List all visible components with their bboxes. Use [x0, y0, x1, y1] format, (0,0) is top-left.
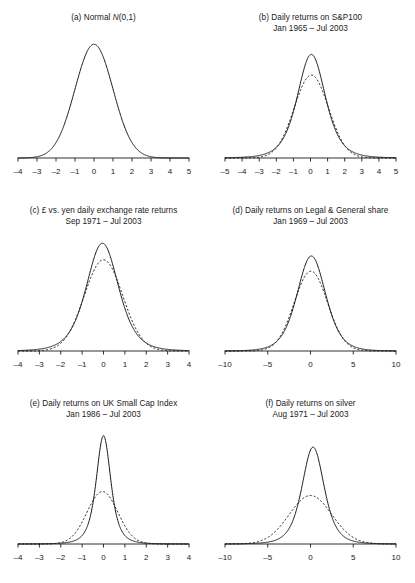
x-axis-tick-label: 1	[111, 167, 116, 176]
x-axis-tick-label: 4	[377, 167, 382, 176]
x-axis-tick-label: –5	[263, 553, 272, 562]
x-axis-tick-label: 5	[394, 167, 399, 176]
empirical-density-curve	[18, 436, 189, 544]
normal-density-curve	[225, 75, 396, 158]
normal-density-curve	[225, 271, 396, 351]
x-axis-tick-label: –2	[56, 553, 65, 562]
x-axis-tick-label: –4	[14, 553, 23, 562]
x-axis-tick-label: –2	[56, 360, 65, 369]
x-axis-tick-label: 2	[342, 167, 347, 176]
x-axis-tick-label: 0	[101, 553, 106, 562]
panel-d: (d) Daily returns on Legal & General sha…	[207, 193, 414, 386]
x-axis-tick-label: –2	[52, 167, 61, 176]
panel-c-plot: –4–3–2–101234	[0, 193, 207, 386]
x-axis-tick-label: –4	[14, 360, 23, 369]
x-axis-tick-label: 5	[351, 553, 356, 562]
normal-density-curve	[225, 496, 396, 544]
x-axis-tick-label: 0	[308, 360, 313, 369]
x-axis-tick-label: –1	[71, 167, 80, 176]
x-axis-tick-label: –4	[238, 167, 247, 176]
x-axis-tick-label: –1	[78, 360, 87, 369]
x-axis-tick-label: –10	[218, 553, 232, 562]
x-axis-tick-label: –2	[272, 167, 281, 176]
normal-density-curve	[18, 260, 189, 351]
x-axis-tick-label: 0	[308, 167, 313, 176]
panel-d-plot: –10–50510	[207, 193, 414, 386]
x-axis-tick-label: –3	[35, 553, 44, 562]
x-axis-tick-label: 2	[144, 553, 149, 562]
x-axis-tick-label: 0	[92, 167, 97, 176]
panel-f-plot: –10–50510	[207, 386, 414, 579]
panel-e-plot: –4–3–2–101234	[0, 386, 207, 579]
panel-b-plot: –5–4–3–2–1012345	[207, 0, 414, 193]
x-axis-tick-label: –3	[35, 360, 44, 369]
x-axis-tick-label: –3	[33, 167, 42, 176]
panel-a: (a) Normal N(0,1) –4–3–2–1012345	[0, 0, 207, 193]
panel-a-plot: –4–3–2–1012345	[0, 0, 207, 193]
x-axis-tick-label: –4	[14, 167, 23, 176]
x-axis-tick-label: –3	[255, 167, 264, 176]
normal-density-curve	[18, 492, 189, 544]
x-axis-tick-label: 1	[123, 553, 128, 562]
x-axis-tick-label: 1	[123, 360, 128, 369]
empirical-density-curve	[225, 54, 396, 157]
x-axis-tick-label: 3	[165, 360, 170, 369]
x-axis-tick-label: –1	[289, 167, 298, 176]
x-axis-tick-label: 1	[325, 167, 330, 176]
x-axis-tick-label: 2	[130, 167, 135, 176]
empirical-density-curve	[225, 256, 396, 351]
x-axis-tick-label: 0	[308, 553, 313, 562]
panel-e: (e) Daily returns on UK Small Cap Index …	[0, 386, 207, 579]
x-axis-tick-label: 3	[165, 553, 170, 562]
x-axis-tick-label: –1	[78, 553, 87, 562]
x-axis-tick-label: 3	[149, 167, 154, 176]
x-axis-tick-label: 4	[187, 553, 192, 562]
x-axis-tick-label: 10	[392, 360, 401, 369]
panel-f: (f) Daily returns on silver Aug 1971 – J…	[207, 386, 414, 579]
x-axis-tick-label: 0	[101, 360, 106, 369]
x-axis-tick-label: –10	[218, 360, 232, 369]
panel-b: (b) Daily returns on S&P100 Jan 1965 – J…	[207, 0, 414, 193]
x-axis-tick-label: 2	[144, 360, 149, 369]
x-axis-tick-label: –5	[221, 167, 230, 176]
x-axis-tick-label: 4	[187, 360, 192, 369]
x-axis-tick-label: 3	[360, 167, 365, 176]
x-axis-tick-label: 5	[351, 360, 356, 369]
density-comparison-figure: (a) Normal N(0,1) –4–3–2–1012345 (b) Dai…	[0, 0, 415, 583]
x-axis-tick-label: 10	[392, 553, 401, 562]
empirical-density-curve	[18, 44, 189, 158]
x-axis-tick-label: 5	[187, 167, 192, 176]
panel-c: (c) £ vs. yen daily exchange rate return…	[0, 193, 207, 386]
x-axis-tick-label: –5	[263, 360, 272, 369]
x-axis-tick-label: 4	[168, 167, 173, 176]
